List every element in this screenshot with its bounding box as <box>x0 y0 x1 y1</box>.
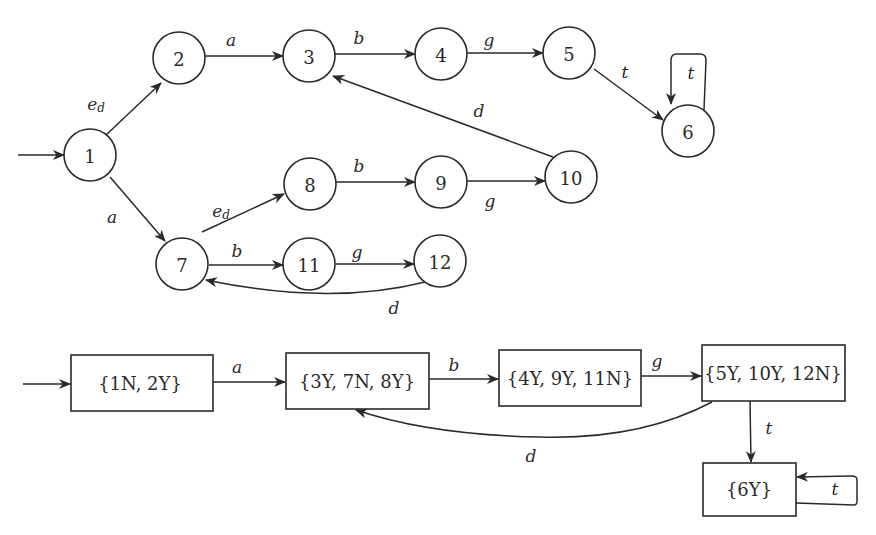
state-12: 12 <box>414 235 466 287</box>
observer-state-1N-2Y: {1N, 2Y} <box>71 355 213 411</box>
state-3: 3 <box>283 30 335 82</box>
observer-state-label: {5Y, 10Y, 12N} <box>704 363 842 384</box>
edge-D-E <box>750 401 751 462</box>
automaton: ed a a b g t t d ed b g b g d 1 2 3 4 5 … <box>18 27 714 318</box>
edge-1-7 <box>110 177 165 241</box>
state-12-label: 12 <box>429 252 452 273</box>
label-edge-A-B: a <box>232 357 242 377</box>
state-2: 2 <box>153 32 205 84</box>
edge-1-2 <box>106 83 161 135</box>
label-edge-D-B: d <box>526 446 537 466</box>
observer-state-label: {3Y, 7N, 8Y} <box>299 371 415 392</box>
observer-state-label: {6Y} <box>726 479 772 500</box>
label-edge-3-4: b <box>354 28 365 48</box>
observer-state-label: {1N, 2Y} <box>98 373 182 394</box>
label-edge-8-9: b <box>354 156 365 176</box>
edge-10-3 <box>333 76 553 157</box>
state-6-label: 6 <box>682 122 693 143</box>
observer-state-6Y: {6Y} <box>703 463 796 516</box>
label-edge-2-3: a <box>226 30 236 50</box>
label-edge-1-7: a <box>107 207 117 227</box>
observer-state-4Y-9Y-11N: {4Y, 9Y, 11N} <box>499 350 641 406</box>
state-4-label: 4 <box>435 45 446 66</box>
label-edge-6-6: t <box>688 63 695 83</box>
label-edge-11-12: g <box>352 242 363 262</box>
observer-state-label: {4Y, 9Y, 11N} <box>507 368 633 389</box>
label-edge-D-E: t <box>766 418 773 438</box>
state-4: 4 <box>415 28 467 80</box>
label-edge-1-2: ed <box>87 94 105 115</box>
state-2-label: 2 <box>173 49 184 70</box>
state-11-label: 11 <box>298 255 321 276</box>
observer-state-5Y-10Y-12N: {5Y, 10Y, 12N} <box>702 345 845 401</box>
diagram-svg: ed a a b g t t d ed b g b g d 1 2 3 4 5 … <box>0 0 876 535</box>
state-8: 8 <box>284 158 336 210</box>
state-7: 7 <box>156 238 208 290</box>
state-6: 6 <box>662 105 714 157</box>
label-edge-7-11: b <box>232 241 243 261</box>
state-9-label: 9 <box>435 173 446 194</box>
label-edge-4-5: g <box>484 30 495 50</box>
label-edge-B-C: b <box>449 355 460 375</box>
state-7-label: 7 <box>176 255 187 276</box>
state-10: 10 <box>545 151 597 203</box>
state-1: 1 <box>64 129 116 181</box>
state-5-label: 5 <box>563 44 574 65</box>
observer: a b g d t t {1N, 2Y} {3Y, 7N, 8Y} {4Y, 9… <box>23 345 857 516</box>
label-edge-C-D: g <box>652 351 663 371</box>
state-10-label: 10 <box>560 168 583 189</box>
label-edge-5-6: t <box>622 62 629 82</box>
state-9: 9 <box>415 156 467 208</box>
observer-state-3Y-7N-8Y: {3Y, 7N, 8Y} <box>286 353 429 409</box>
state-8-label: 8 <box>304 175 315 196</box>
diagram-canvas: ed a a b g t t d ed b g b g d 1 2 3 4 5 … <box>0 0 876 535</box>
state-11: 11 <box>283 238 335 290</box>
edge-5-6 <box>594 69 663 120</box>
label-edge-12-7: d <box>389 298 400 318</box>
state-1-label: 1 <box>84 146 95 167</box>
label-edge-7-8: ed <box>212 201 230 222</box>
label-edge-E-E: t <box>832 479 839 499</box>
state-3-label: 3 <box>303 47 314 68</box>
edge-E-E-loop <box>796 476 857 505</box>
label-edge-9-10: g <box>485 191 496 211</box>
state-5: 5 <box>543 27 595 79</box>
label-edge-10-3: d <box>474 101 485 121</box>
